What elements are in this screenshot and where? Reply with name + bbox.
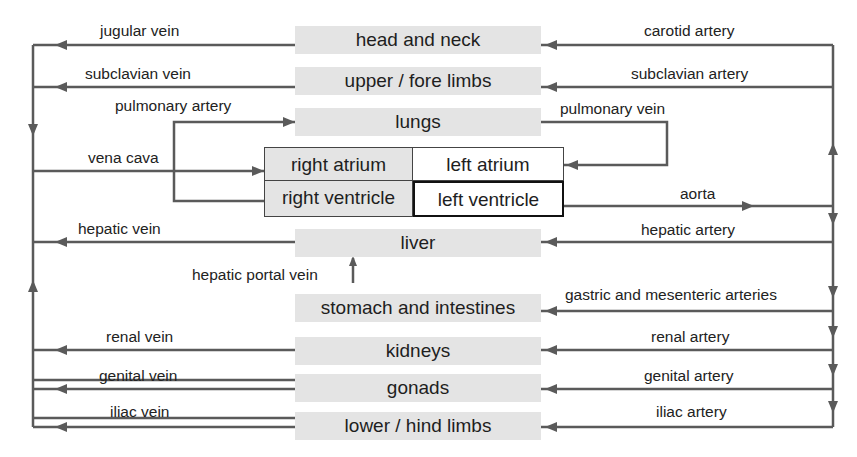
label-carotid-artery: carotid artery — [644, 22, 734, 40]
label-hepatic-portal-vein: hepatic portal vein — [192, 266, 318, 284]
organ-upper-fore-limbs: upper / fore limbs — [295, 67, 541, 95]
organ-stomach-and-intestines: stomach and intestines — [295, 294, 541, 322]
label-gastric-and-mesenteric-arteries: gastric and mesenteric arteries — [565, 286, 777, 304]
label-subclavian-artery: subclavian artery — [631, 65, 748, 83]
label-subclavian-vein: subclavian vein — [85, 65, 191, 83]
label-jugular-vein: jugular vein — [100, 22, 179, 40]
organ-lower-hind-limbs: lower / hind limbs — [295, 412, 541, 440]
organ-gonads: gonads — [295, 374, 541, 402]
label-hepatic-vein: hepatic vein — [78, 220, 161, 238]
label-renal-vein: renal vein — [106, 328, 173, 346]
organ-kidneys: kidneys — [295, 337, 541, 365]
label-iliac-vein: iliac vein — [110, 403, 169, 421]
circulatory-system-diagram: head and neck upper / fore limbs lungs l… — [0, 0, 857, 457]
left-atrium: left atrium — [413, 147, 564, 181]
label-pulmonary-vein: pulmonary vein — [560, 100, 665, 118]
right-ventricle: right ventricle — [264, 181, 413, 217]
left-ventricle: left ventricle — [413, 181, 564, 217]
label-hepatic-artery: hepatic artery — [641, 221, 735, 239]
right-atrium: right atrium — [264, 147, 413, 181]
heart: right atrium left atrium right ventricle… — [264, 147, 564, 217]
organ-liver: liver — [295, 229, 541, 257]
label-pulmonary-artery: pulmonary artery — [115, 97, 231, 115]
organ-lungs: lungs — [295, 108, 541, 136]
label-genital-artery: genital artery — [644, 367, 734, 385]
label-aorta: aorta — [680, 185, 715, 203]
label-vena-cava: vena cava — [88, 149, 159, 167]
label-renal-artery: renal artery — [651, 328, 729, 346]
label-genital-vein: genital vein — [99, 367, 177, 385]
organ-head-and-neck: head and neck — [295, 26, 541, 54]
label-iliac-artery: iliac artery — [656, 403, 727, 421]
